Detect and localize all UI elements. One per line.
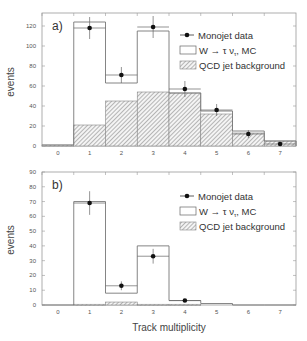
y-tick-label: 80: [29, 184, 36, 190]
legend-mc-label: W → τ ντ, MC: [199, 45, 256, 57]
y-tick-label: 0: [33, 143, 37, 149]
data-point: [87, 26, 92, 31]
data-point: [151, 25, 156, 30]
qcd-bar: [74, 125, 106, 146]
data-point: [151, 254, 156, 259]
x-tick-label: 5: [215, 150, 219, 156]
qcd-bar: [169, 304, 201, 305]
legend-data-label: Monojet data: [198, 191, 254, 202]
legend-data-marker: [185, 33, 190, 38]
x-tick-label: 6: [247, 150, 251, 156]
y-axis-label: events: [5, 225, 16, 254]
x-tick-label: 7: [278, 309, 282, 315]
y-tick-label: 20: [29, 123, 36, 129]
legend-mc-swatch: [180, 207, 196, 215]
x-tick-label: 7: [278, 150, 282, 156]
y-tick-label: 80: [29, 63, 36, 69]
y-axis-label: events: [5, 67, 16, 96]
x-tick-label: 0: [56, 309, 60, 315]
y-tick-label: 90: [29, 169, 36, 175]
data-point: [246, 132, 251, 137]
x-tick-label: 1: [88, 150, 92, 156]
y-tick-label: 40: [29, 243, 36, 249]
data-point: [119, 283, 124, 288]
figure: 01234567020406080100120eventsa)Monojet d…: [0, 0, 307, 341]
y-tick-label: 120: [26, 23, 37, 29]
panel-a: 01234567020406080100120eventsa)Monojet d…: [5, 13, 296, 156]
qcd-bar: [169, 93, 201, 146]
data-point: [183, 87, 188, 92]
qcd-bar: [74, 304, 106, 305]
y-tick-label: 40: [29, 103, 36, 109]
panel-b: 012345670102030405060708090eventsb)Monoj…: [5, 169, 296, 333]
panel-label: b): [52, 178, 63, 192]
x-tick-label: 5: [215, 309, 219, 315]
y-tick-label: 100: [26, 43, 37, 49]
x-tick-label: 1: [88, 309, 92, 315]
x-tick-label: 2: [120, 150, 124, 156]
legend-data-marker: [185, 194, 190, 199]
y-tick-label: 10: [29, 287, 36, 293]
x-tick-label: 4: [183, 150, 187, 156]
y-tick-label: 60: [29, 213, 36, 219]
data-point: [119, 73, 124, 78]
data-point: [183, 298, 188, 303]
legend-mc-label: W → τ ντ, MC: [199, 206, 256, 218]
data-point: [278, 142, 283, 147]
qcd-bar: [137, 304, 169, 305]
x-axis-label: Track multiplicity: [132, 322, 206, 333]
qcd-bar: [106, 302, 138, 305]
x-tick-label: 4: [183, 309, 187, 315]
data-point: [87, 201, 92, 206]
legend-qcd-swatch: [180, 222, 196, 230]
data-point: [214, 108, 219, 113]
legend-data-label: Monojet data: [198, 30, 254, 41]
legend-qcd-label: QCD jet background: [199, 221, 285, 232]
x-tick-label: 3: [151, 309, 155, 315]
x-tick-label: 6: [247, 309, 251, 315]
mc-histogram: [42, 202, 296, 305]
x-tick-label: 0: [56, 150, 60, 156]
y-tick-label: 20: [29, 272, 36, 278]
y-tick-label: 30: [29, 258, 36, 264]
y-tick-label: 70: [29, 199, 36, 205]
legend-mc-swatch: [180, 46, 196, 54]
legend-qcd-label: QCD jet background: [199, 60, 285, 71]
x-tick-label: 3: [151, 150, 155, 156]
qcd-bar: [201, 114, 233, 146]
x-tick-label: 2: [120, 309, 124, 315]
y-tick-label: 0: [33, 302, 37, 308]
qcd-bar: [137, 92, 169, 146]
panel-label: a): [52, 19, 63, 33]
legend-qcd-swatch: [180, 61, 196, 69]
qcd-bar: [106, 101, 138, 146]
y-tick-label: 60: [29, 83, 36, 89]
y-tick-label: 50: [29, 228, 36, 234]
